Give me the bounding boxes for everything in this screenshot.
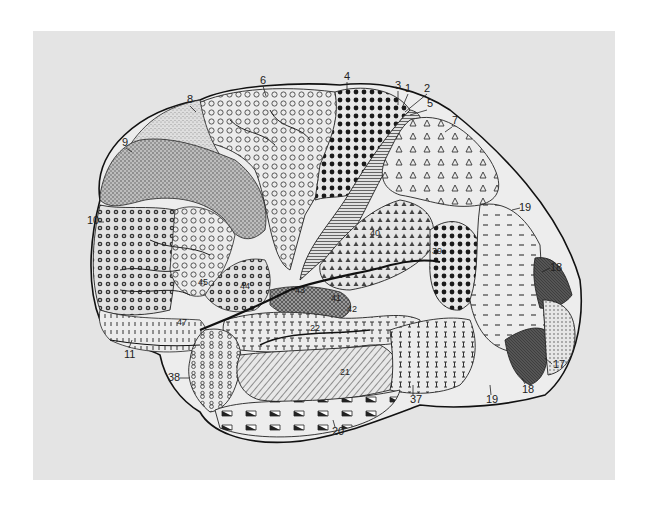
label-41: 41: [331, 293, 341, 303]
label-9: 9: [122, 136, 128, 148]
label-11: 11: [124, 348, 135, 360]
label-17: 17: [553, 358, 565, 370]
label-18-lower: 18: [522, 383, 534, 395]
label-43: 43: [295, 285, 305, 295]
label-18-upper: 18: [550, 261, 562, 273]
label-8: 8: [187, 93, 193, 105]
label-45: 45: [198, 277, 208, 287]
label-3: 3: [395, 79, 401, 91]
label-47: 47: [177, 317, 187, 327]
label-19-lower: 19: [486, 393, 498, 405]
brain-diagram: 1 2 3 4 5 6 7 8 9 10 11 17 18 18 19 19 2…: [0, 0, 649, 515]
label-1: 1: [405, 82, 411, 94]
label-6: 6: [260, 74, 266, 86]
label-19-upper: 19: [519, 201, 531, 213]
label-44: 44: [240, 281, 250, 291]
label-22: 22: [310, 323, 320, 333]
label-38: 38: [168, 371, 180, 383]
label-39: 39: [432, 246, 442, 256]
label-5: 5: [427, 97, 433, 109]
label-7: 7: [452, 114, 458, 126]
label-20: 20: [332, 425, 344, 437]
label-40: 40: [370, 228, 380, 238]
label-2: 2: [424, 82, 430, 94]
label-21: 21: [340, 367, 350, 377]
label-42: 42: [347, 304, 357, 314]
label-4: 4: [344, 70, 350, 82]
label-10: 10: [87, 214, 99, 226]
label-37: 37: [410, 393, 422, 405]
